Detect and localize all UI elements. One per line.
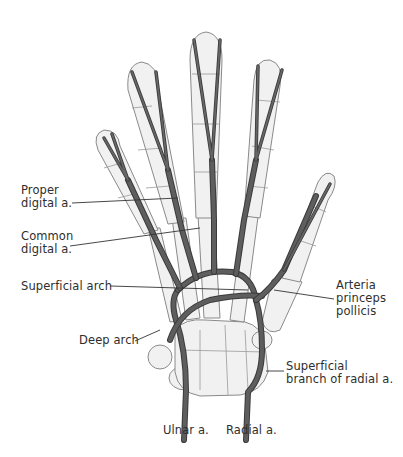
label-ulnar-artery: Ulnar a. — [163, 424, 209, 437]
label-deep-arch: Deep arch — [79, 334, 139, 347]
label-superficial-branch-radial: Superficial branch of radial a. — [286, 360, 393, 386]
label-superficial-arch: Superficial arch — [21, 280, 112, 293]
label-proper-digital-artery: Proper digital a. — [21, 184, 72, 210]
label-arteria-princeps-pollicis: Arteria princeps pollicis — [336, 279, 386, 318]
label-radial-artery: Radial a. — [226, 424, 277, 437]
label-common-digital-artery: Common digital a. — [21, 230, 73, 256]
